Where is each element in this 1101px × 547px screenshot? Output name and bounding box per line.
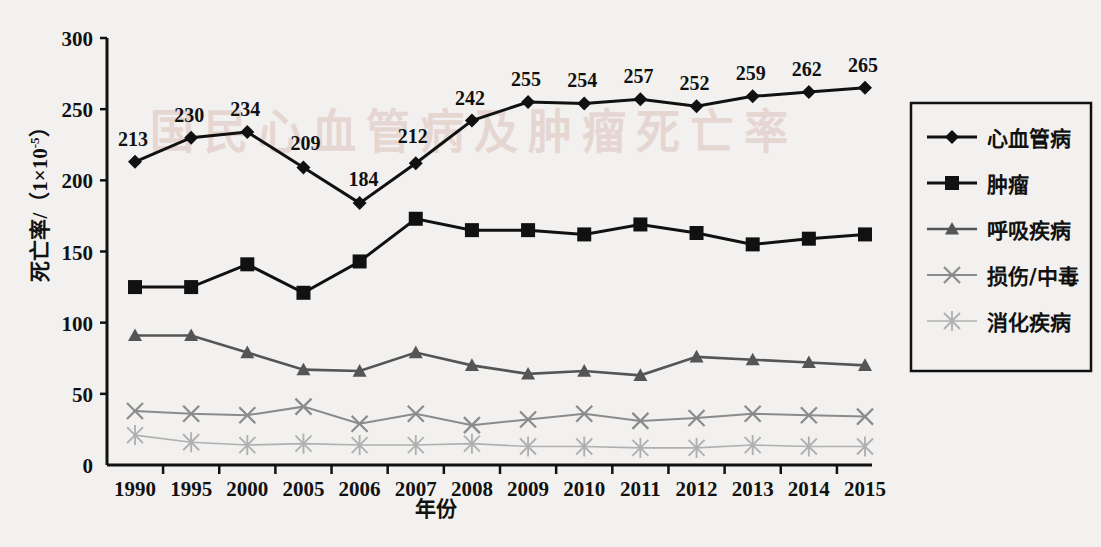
y-axis-tick-labels: 050100150200250300: [62, 27, 94, 478]
data-point-marker: [690, 226, 704, 240]
data-point-marker: [184, 131, 198, 145]
data-point-marker: [746, 237, 760, 251]
legend-label: 肿瘤: [987, 173, 1029, 197]
data-point-marker: [633, 92, 647, 106]
data-point-marker: [802, 85, 816, 99]
legend-item-4[interactable]: 损伤/中毒: [927, 265, 1079, 289]
legend-label: 心血管病: [987, 127, 1071, 151]
data-label: 262: [792, 58, 822, 80]
legend-item-5[interactable]: 消化疾病: [927, 311, 1071, 335]
y-axis-title-exponent: -5: [27, 137, 42, 148]
data-point-marker: [240, 257, 254, 271]
data-point-marker: [945, 176, 959, 190]
chart-data-labels: 2132302342091842122422552542572522592622…: [118, 54, 878, 190]
y-tick-label: 200: [62, 169, 94, 193]
data-point-marker: [521, 223, 535, 237]
legend-item-3[interactable]: 呼吸疾病: [927, 219, 1071, 243]
data-point-marker: [184, 280, 198, 294]
y-tick-label: 0: [83, 454, 94, 478]
data-point-marker: [128, 155, 142, 169]
data-label: 209: [290, 132, 320, 154]
y-axis-title: 死亡率/（1×10-5）: [23, 49, 53, 349]
data-point-marker: [858, 227, 872, 241]
legend-item-2[interactable]: 肿瘤: [927, 173, 1029, 197]
legend-item-1[interactable]: 心血管病: [927, 127, 1071, 151]
series-triangle: [128, 328, 872, 380]
data-label: 234: [230, 98, 260, 120]
data-label: 230: [174, 104, 204, 126]
data-label: 252: [680, 72, 710, 94]
chart-figure: 国民心血管病及肿瘤死亡率 050100150200250300 19901995…: [0, 0, 1101, 547]
data-point-marker: [296, 286, 310, 300]
y-tick-label: 150: [62, 241, 94, 265]
x-axis-title: 年份: [0, 492, 872, 522]
data-label: 255: [511, 68, 541, 90]
data-point-marker: [128, 280, 142, 294]
data-point-marker: [746, 89, 760, 103]
data-point-marker: [577, 227, 591, 241]
data-point-marker: [409, 346, 423, 359]
y-axis-title-main: 死亡率/（1×10: [28, 148, 52, 281]
legend-label: 呼吸疾病: [987, 219, 1071, 243]
y-axis-title-tail: ）: [28, 116, 52, 137]
data-label: 212: [398, 125, 428, 147]
series-cross: [127, 399, 873, 434]
legend-label: 消化疾病: [987, 311, 1071, 335]
data-point-marker: [465, 223, 479, 237]
data-point-marker: [409, 212, 423, 226]
chart-axes: [100, 38, 872, 474]
chart-series-layer: [127, 81, 873, 458]
chart-legend: 心血管病肿瘤呼吸疾病损伤/中毒消化疾病: [911, 103, 1091, 371]
data-label: 259: [736, 62, 766, 84]
data-label: 257: [623, 65, 653, 87]
data-point-marker: [633, 217, 647, 231]
y-tick-label: 300: [62, 27, 94, 51]
series-asterisk: [127, 425, 873, 458]
data-label: 242: [455, 87, 485, 109]
legend-label: 损伤/中毒: [987, 265, 1079, 289]
data-label: 184: [349, 168, 379, 190]
data-point-marker: [296, 161, 310, 175]
data-point-marker: [240, 125, 254, 139]
data-label: 265: [848, 54, 878, 76]
data-point-marker: [577, 96, 591, 110]
data-label: 254: [567, 69, 597, 91]
series-square: [128, 212, 872, 300]
data-point-marker: [945, 130, 959, 144]
data-point-marker: [858, 81, 872, 95]
data-point-marker: [802, 232, 816, 246]
y-tick-label: 100: [62, 312, 94, 336]
y-tick-label: 50: [72, 383, 93, 407]
data-point-marker: [521, 95, 535, 109]
data-label: 213: [118, 128, 148, 150]
data-point-marker: [690, 99, 704, 113]
data-point-marker: [353, 254, 367, 268]
line-chart-canvas: 050100150200250300 199019952000200520062…: [0, 0, 1101, 547]
y-tick-label: 250: [62, 98, 94, 122]
